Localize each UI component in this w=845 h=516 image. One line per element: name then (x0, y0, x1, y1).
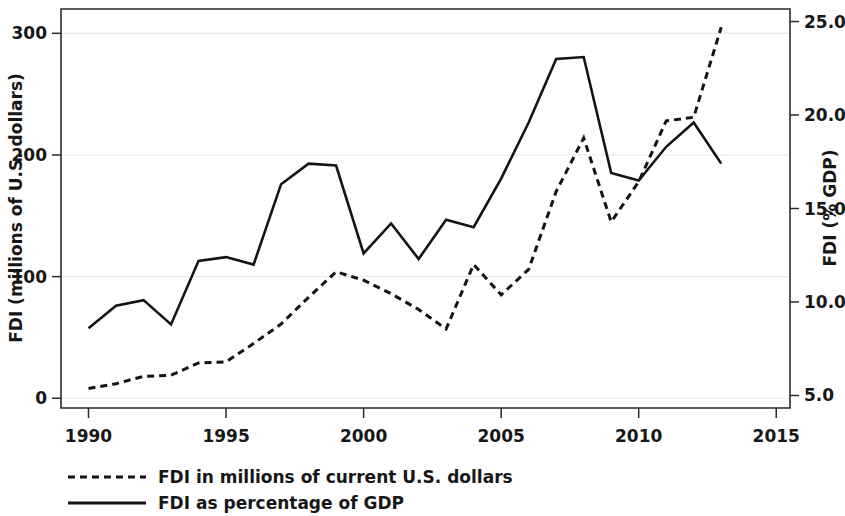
x-tick-label: 2000 (340, 426, 387, 446)
x-tick-label: 2015 (753, 426, 800, 446)
right-axis-title: FDI (% GDP) (820, 150, 840, 267)
legend-label-fdi-percent: FDI as percentage of GDP (158, 493, 404, 513)
chart-background (0, 0, 845, 516)
right-tick-label: 5.0 (804, 385, 834, 405)
x-tick-label: 1995 (202, 426, 249, 446)
left-tick-label: 0 (35, 388, 47, 408)
chart-figure: 0100200300 5.010.015.020.025.0 199019952… (0, 0, 845, 516)
left-tick-label: 300 (12, 23, 48, 43)
right-tick-label: 20.0 (804, 105, 845, 125)
x-tick-label: 2005 (477, 426, 524, 446)
x-tick-label: 1990 (65, 426, 112, 446)
right-tick-label: 25.0 (804, 12, 845, 32)
fdi-dual-axis-line-chart: 0100200300 5.010.015.020.025.0 199019952… (0, 0, 845, 516)
legend-label-fdi-millions: FDI in millions of current U.S. dollars (158, 467, 513, 487)
right-tick-label: 10.0 (804, 292, 845, 312)
x-tick-label: 2010 (615, 426, 662, 446)
left-axis-title: FDI (millions of U.S. dollars) (6, 73, 26, 343)
